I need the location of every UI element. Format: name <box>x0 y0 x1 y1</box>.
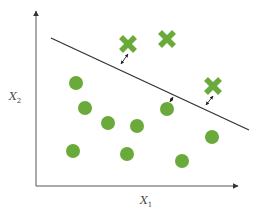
x-axis-label: X1 <box>140 194 152 209</box>
cross-marker-icon <box>121 37 135 51</box>
circle-marker-icon <box>175 154 189 168</box>
class-x-markers <box>121 32 220 93</box>
circle-marker-icon <box>78 101 92 115</box>
circle-marker-icon <box>120 147 134 161</box>
margin-distance-arrow <box>170 97 173 102</box>
circle-marker-icon <box>160 102 174 116</box>
circle-marker-icon <box>130 119 144 133</box>
y-axis-label: X2 <box>9 90 21 105</box>
circle-marker-icon <box>101 116 115 130</box>
cross-marker-icon <box>206 79 220 93</box>
margin-distance-arrow <box>206 96 213 105</box>
circle-marker-icon <box>66 144 80 158</box>
axes <box>36 11 238 186</box>
circle-marker-icon <box>69 76 83 90</box>
circle-marker-icon <box>205 130 219 144</box>
svm-margin-diagram <box>0 0 260 215</box>
cross-marker-icon <box>160 32 174 46</box>
margin-distance-arrows <box>121 54 213 105</box>
margin-distance-arrow <box>121 54 128 64</box>
class-circle-markers <box>66 76 219 168</box>
